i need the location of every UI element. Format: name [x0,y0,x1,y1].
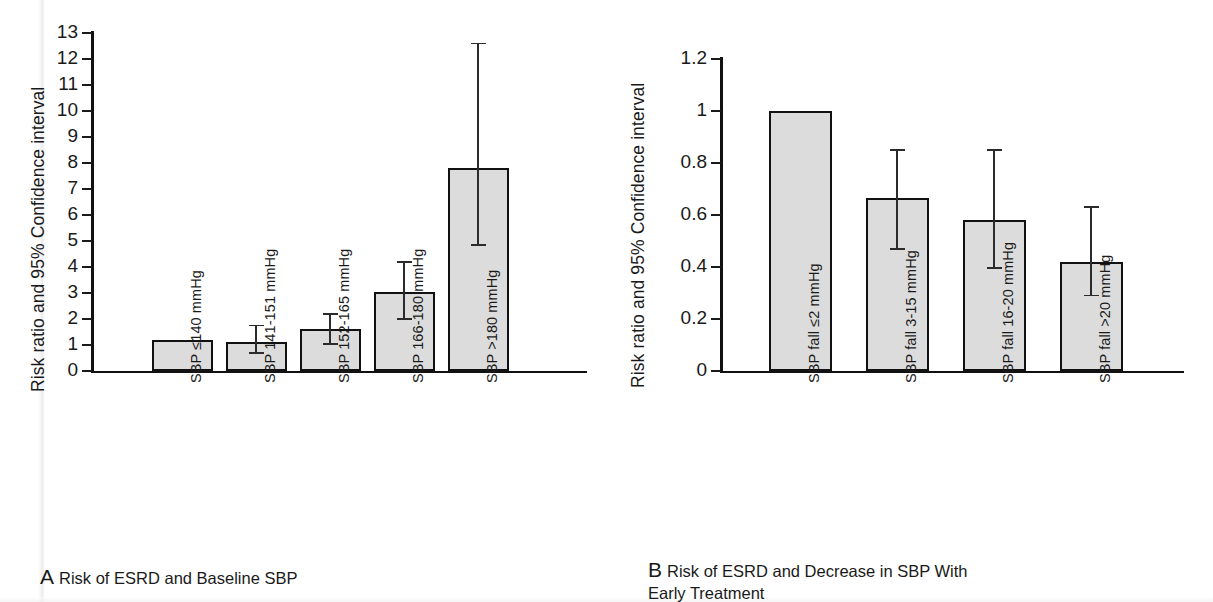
x-category-label: SBP >180 mmHg [484,270,500,383]
y-tick-mark [711,110,721,112]
y-tick-mark [82,188,92,190]
y-tick-label: 9 [50,126,78,145]
panel-b: Risk ratio and 95% Confidence interval 0… [610,0,1213,602]
y-tick-label: 1.2 [667,48,707,67]
figure-two-panel-bar-charts: Risk ratio and 95% Confidence interval 0… [0,0,1213,602]
y-tick-mark [711,162,721,164]
y-tick-mark [82,162,92,164]
y-tick-mark [82,32,92,34]
y-tick-mark [82,110,92,112]
y-tick-label: 12 [50,48,78,67]
y-tick-mark [82,136,92,138]
y-tick-mark [82,240,92,242]
panel-b-plot-area: 00.20.40.60.811.2 SBP fall ≤2 mmHgSBP fa… [610,0,1213,602]
x-category-label: SBP fall 3-15 mmHg [903,250,919,383]
y-tick-label: 0 [667,360,707,379]
y-tick-label: 0.2 [667,308,707,327]
panel-a-caption: ARisk of ESRD and Baseline SBP [40,541,520,590]
x-category-label: SBP 166-180 mmHg [410,249,426,383]
panel-a-caption-letter: A [40,565,54,588]
y-tick-mark [82,266,92,268]
y-tick-mark [82,214,92,216]
error-bar-line [896,150,898,249]
panel-b-caption: BRisk of ESRD and Decrease in SBP With E… [648,534,1118,602]
x-category-label: SBP 152-165 mmHg [336,249,352,383]
error-bar-line [1090,207,1092,295]
y-tick-mark [711,214,721,216]
x-category-label: SBP fall 16-20 mmHg [1000,242,1016,383]
y-tick-label: 0.4 [667,256,707,275]
y-tick-label: 13 [50,22,78,41]
y-tick-label: 10 [50,100,78,119]
y-tick-label: 0 [50,360,78,379]
y-tick-label: 1 [50,334,78,353]
y-tick-label: 8 [50,152,78,171]
error-bar-line [477,43,479,245]
y-tick-mark [82,344,92,346]
y-tick-mark [711,370,721,372]
y-tick-mark [82,370,92,372]
x-category-label: SBP fall ≤2 mmHg [806,263,822,383]
error-bar-cap-lower [471,244,486,246]
panel-b-caption-letter: B [648,558,662,581]
y-tick-label: 0.8 [667,152,707,171]
y-tick-label: 0.6 [667,204,707,223]
y-tick-label: 1 [667,100,707,119]
error-bar-line [993,150,995,268]
y-tick-label: 6 [50,204,78,223]
error-bar-line [255,326,257,353]
error-bar-cap-upper [471,43,486,45]
y-tick-label: 5 [50,230,78,249]
y-tick-label: 11 [50,74,78,93]
y-tick-mark [82,84,92,86]
x-category-label: SBP 141-151 mmHg [262,249,278,383]
y-tick-label: 2 [50,308,78,327]
y-tick-label: 4 [50,256,78,275]
error-bar-line [403,262,405,319]
y-tick-label: 7 [50,178,78,197]
panel-a-caption-text: Risk of ESRD and Baseline SBP [59,569,297,587]
y-tick-mark [711,318,721,320]
error-bar-cap-upper [890,149,905,151]
y-tick-mark [711,266,721,268]
y-tick-mark [82,318,92,320]
error-bar-cap-upper [987,149,1002,151]
panel-a: Risk ratio and 95% Confidence interval 0… [0,0,610,602]
x-category-label: SBP fall >20 mmHg [1097,255,1113,383]
error-bar-line [329,314,331,344]
y-tick-mark [711,58,721,60]
error-bar-cap-upper [1084,206,1099,208]
y-tick-mark [82,292,92,294]
panel-b-caption-text: Risk of ESRD and Decrease in SBP With Ea… [648,562,968,602]
bar [769,111,832,371]
y-tick-label: 3 [50,282,78,301]
panel-a-plot-area: 012345678910111213 SBP ≤140 mmHgSBP 141-… [0,0,610,602]
panel-a-y-axis [91,31,94,373]
y-tick-mark [82,58,92,60]
x-category-label: SBP ≤140 mmHg [188,270,204,383]
